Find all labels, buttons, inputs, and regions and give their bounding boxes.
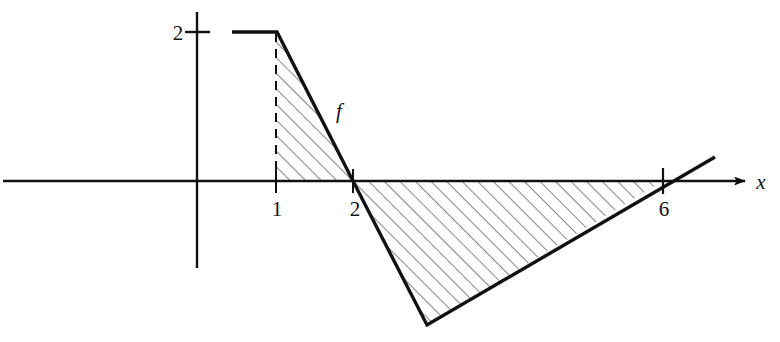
x-tick-label-2: 2	[350, 197, 361, 221]
x-tick-label-6: 6	[659, 197, 670, 221]
y-tick-label-2: 2	[173, 21, 184, 45]
function-graph-figure: 2 1 2 6 f x	[0, 0, 780, 342]
x-axis-label: x	[755, 170, 766, 194]
x-tick-label-1: 1	[272, 197, 283, 221]
